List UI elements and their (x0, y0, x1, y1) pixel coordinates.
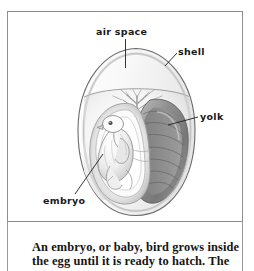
label-embryo: embryo (43, 196, 85, 206)
caption-line-2: the egg until it is ready to hatch. The (32, 254, 238, 268)
label-air-space: air space (96, 27, 147, 37)
caption-line-1: An embryo, or baby, bird grows inside (32, 240, 238, 254)
figure-caption: An embryo, or baby, bird grows inside th… (32, 240, 238, 268)
left-column-rule (7, 222, 8, 271)
label-yolk: yolk (200, 112, 224, 122)
label-shell: shell (178, 47, 205, 57)
figure-page: air space shell yolk embryo An embryo, o… (0, 0, 254, 271)
right-column-rule (242, 222, 243, 271)
